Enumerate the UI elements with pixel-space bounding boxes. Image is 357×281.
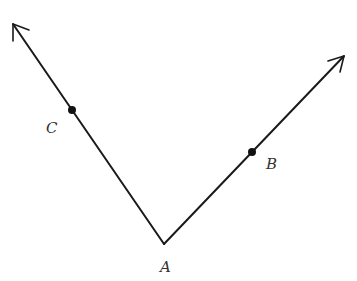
point-b bbox=[248, 148, 256, 156]
label-a: A bbox=[158, 258, 171, 276]
label-c: C bbox=[46, 119, 58, 137]
angle-diagram: C B A bbox=[0, 0, 357, 281]
point-c bbox=[68, 106, 76, 114]
label-b: B bbox=[265, 155, 277, 173]
ray-ac bbox=[13, 24, 164, 244]
